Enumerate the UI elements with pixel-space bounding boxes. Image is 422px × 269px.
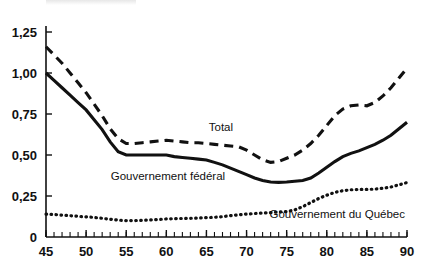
x-tick-labels: 45505560657075808590 [39,244,414,259]
y-axis-group: 00,250,500,751,001,25 [12,25,52,245]
x-tick-label: 65 [199,244,213,259]
y-tick-label: 0 [30,230,37,245]
y-tick-label: 0,25 [12,189,37,204]
series-lines [46,47,407,221]
x-tick-label: 75 [279,244,293,259]
x-tick-label: 45 [39,244,53,259]
x-tick-label: 90 [400,244,414,259]
y-tick-labels: 00,250,500,751,001,25 [12,25,37,245]
x-tick-label: 50 [79,244,93,259]
y-tick-label: 1,25 [12,25,37,40]
line-chart: 00,250,500,751,001,25 455055606570758085… [0,0,422,269]
x-tick-label: 60 [159,244,173,259]
series-line-total [46,47,407,163]
x-tick-label: 85 [360,244,374,259]
series-annotation-label: Gouvernement fédéral [111,170,225,182]
series-annotation-label: Gouvernement du Québec [269,208,405,220]
y-tick-label: 0,75 [12,107,37,122]
x-tick-label: 55 [119,244,133,259]
chart-container: 00,250,500,751,001,25 455055606570758085… [0,0,422,269]
x-major-ticks [46,230,407,237]
y-ticks [46,32,52,196]
series-annotation-label: Total [209,121,233,133]
x-tick-label: 80 [320,244,334,259]
y-tick-label: 1,00 [12,66,37,81]
cropped-title-artifact [46,0,136,5]
series-annotations: TotalGouvernement fédéralGouvernement du… [111,121,406,220]
y-tick-label: 0,50 [12,148,37,163]
x-axis-group: 45505560657075808590 [39,230,414,259]
x-tick-label: 70 [239,244,253,259]
